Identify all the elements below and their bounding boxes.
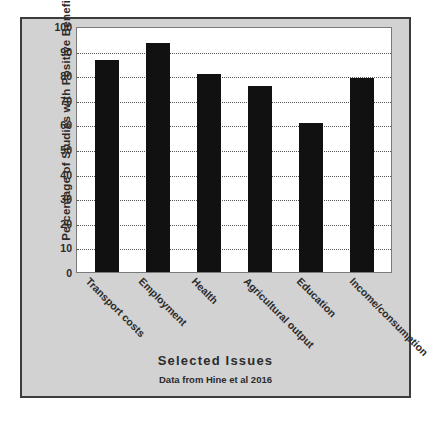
bar [95, 60, 119, 272]
source-annotation: Data from Hine et al 2016 [22, 374, 409, 385]
x-axis-title: Selected Issues [22, 353, 409, 368]
y-tick-label: 30 [60, 193, 72, 205]
y-tick-label: 50 [60, 144, 72, 156]
y-tick-label: 10 [60, 242, 72, 254]
y-tick-label: 20 [60, 218, 72, 230]
y-tick-label: 100 [54, 21, 72, 33]
bar [197, 74, 221, 272]
y-tick-label: 60 [60, 119, 72, 131]
bar [248, 86, 272, 272]
chart-figure: Percentage of Studies with Positive Bene… [20, 17, 411, 398]
y-axis-tick-labels: 1009080706050403020100 [38, 27, 72, 273]
plot-area [76, 27, 392, 273]
y-tick-label: 40 [60, 169, 72, 181]
y-tick-label: 90 [60, 46, 72, 58]
y-tick-label: 80 [60, 70, 72, 82]
x-tick-label: Employment [137, 275, 190, 328]
y-tick-label: 0 [66, 267, 72, 279]
bar-series [77, 28, 391, 272]
bar [299, 123, 323, 272]
y-tick-label: 70 [60, 95, 72, 107]
bar [350, 78, 374, 272]
x-tick-label: Health [189, 275, 220, 306]
x-tick-label: Income/consumption [347, 275, 430, 358]
x-tick-label: Education [295, 275, 339, 319]
bar [146, 43, 170, 272]
